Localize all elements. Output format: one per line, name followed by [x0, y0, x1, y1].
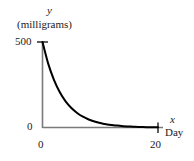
decay-curve-path	[43, 42, 159, 127]
x-tick-label-0: 0	[38, 139, 44, 150]
y-tick-label-500: 500	[15, 36, 32, 47]
decay-curve-figure: y (milligrams) 500 0 0 20 x Day	[0, 0, 194, 161]
x-axis-unit-label: Day	[165, 127, 183, 138]
x-tick-label-20: 20	[150, 139, 161, 150]
y-axis-symbol-label: y	[47, 5, 52, 16]
y-tick-label-0: 0	[27, 121, 33, 132]
x-axis-symbol-label: x	[170, 114, 175, 125]
y-axis-unit-label: (milligrams)	[17, 19, 72, 30]
